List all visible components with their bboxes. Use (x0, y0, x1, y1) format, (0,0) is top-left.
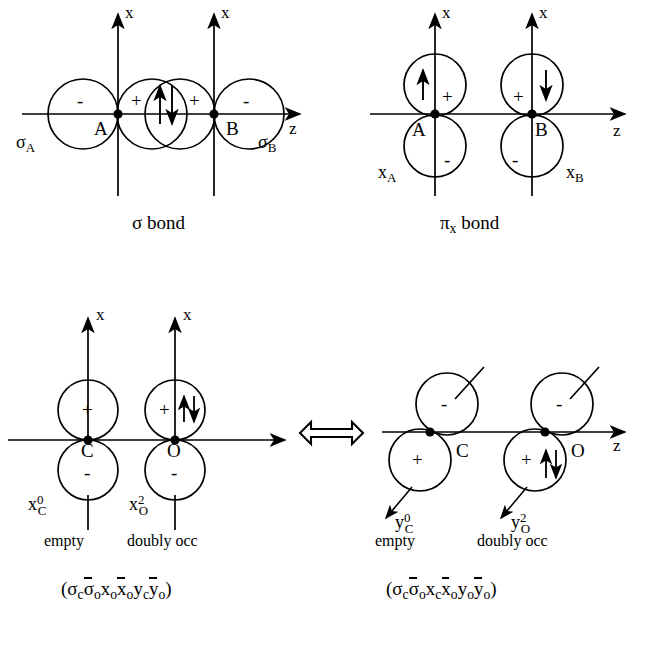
lobe-sign-xc-top: + (82, 400, 93, 419)
lobe-sign-pi-top-b: + (513, 87, 524, 106)
axis-label-x-c: x (96, 306, 105, 323)
atom-label-c-y: C (456, 441, 469, 460)
y-c-base: y (395, 512, 404, 532)
x-b-sub: B (575, 170, 584, 185)
panel-sigma-bond (22, 14, 300, 196)
orbital-label-x-o: x2O (129, 494, 148, 518)
y-o-base: y (511, 512, 520, 532)
occupancy-x-c: empty (44, 533, 84, 549)
config-l-t5: y (149, 579, 159, 598)
config-r-t4: y (458, 578, 468, 599)
x-a-sub: A (387, 170, 396, 185)
axis-label-x-b1: x (221, 4, 230, 21)
config-r-t1: σ (409, 579, 419, 598)
lobe-sign-sigma-2: + (131, 91, 142, 110)
config-r-t3: x (441, 579, 451, 598)
config-r-t5: y (474, 579, 484, 598)
axis-label-z-4: z (613, 437, 621, 454)
lobe-sign-yo-bottom: + (521, 450, 532, 469)
atom-label-o-x: O (167, 441, 181, 460)
config-right-close: ) (490, 578, 496, 599)
lobe-sign-pi-top-a: + (442, 87, 453, 106)
caption-sigma-bond: σ bond (132, 213, 185, 232)
x-o-sub: O (139, 503, 148, 518)
axis-label-x-a1: x (125, 4, 134, 21)
pi-caption-rest: bond (456, 212, 499, 233)
molecular-orbital-figure: x x z - + + - A B σA σB σ bond x x z + +… (0, 0, 649, 649)
x-c-base: x (28, 494, 37, 514)
occupancy-y-c: empty (375, 533, 415, 549)
axis-label-z-1: z (289, 120, 297, 137)
resonance-arrow-shape (300, 422, 363, 444)
config-r-t3-sub: o (451, 587, 458, 602)
lobe-sign-xc-bottom: - (84, 463, 90, 482)
config-l-t4: y (133, 578, 143, 599)
config-l-t3: x (117, 579, 127, 598)
lobe-sign-sigma-4: - (243, 91, 249, 110)
diagram-canvas (0, 0, 649, 649)
config-l-t2: x (101, 578, 111, 599)
caption-pi-bond: πx bond (440, 213, 499, 236)
config-l-t2-sub: o (110, 587, 117, 602)
sigma-b-base: σ (258, 132, 268, 152)
config-l-t1-sub: o (94, 587, 101, 602)
config-r-t0: σ (392, 578, 402, 599)
atom-label-o-y: O (571, 441, 585, 460)
atom-label-b-pi: B (535, 120, 548, 139)
sigma-a-sub: A (26, 140, 35, 155)
orbital-label-x-c: x0C (28, 494, 46, 518)
panel-co-y (382, 367, 625, 518)
lobe-sign-sigma-1: - (77, 91, 83, 110)
axis-label-x-b2: x (539, 4, 548, 21)
axis-label-z-2: z (613, 122, 621, 139)
atom-label-c-x: C (81, 441, 94, 460)
lobe-sign-yc-top: - (441, 394, 447, 413)
config-r-t1-sub: o (419, 587, 426, 602)
pi-caption-base: π (440, 212, 450, 233)
lobe-sign-yo-top: - (556, 394, 562, 413)
lobe-sign-yc-bottom: + (412, 450, 423, 469)
lobe-sign-pi-bot-b: - (512, 150, 518, 169)
x-c-sub: C (38, 503, 47, 518)
orbital-label-sigma-b: σB (258, 133, 276, 155)
occupancy-x-o: doubly occ (127, 533, 198, 549)
axis-label-x-a2: x (442, 4, 451, 21)
atom-label-a-sigma: A (94, 119, 108, 138)
lobe-sign-sigma-3: + (189, 91, 200, 110)
x-o-base: x (129, 494, 138, 514)
atom-label-b-sigma: B (226, 119, 239, 138)
lobe-sign-xo-top: + (159, 400, 170, 419)
panel-pi-bond (370, 14, 625, 196)
lobe-sign-xo-bottom: - (171, 463, 177, 482)
sigma-a-base: σ (16, 132, 26, 152)
config-l-t0: σ (67, 578, 77, 599)
config-r-t4-sub: o (467, 587, 474, 602)
atom-label-a-pi: A (412, 120, 426, 139)
configuration-left: (σcσoxoxoycyo) (61, 579, 172, 602)
sigma-b-sub: B (268, 140, 277, 155)
orbital-label-sigma-a: σA (16, 133, 35, 155)
config-left-close: ) (165, 578, 171, 599)
lobe-sign-pi-bot-a: - (444, 150, 450, 169)
x-b-base: x (566, 162, 575, 182)
configuration-right: (σcσoxcxoyoyo) (386, 579, 497, 602)
config-l-t1: σ (84, 579, 94, 598)
orbital-label-x-b: xB (566, 163, 584, 185)
x-a-base: x (378, 162, 387, 182)
occupancy-y-o: doubly occ (477, 533, 548, 549)
orbital-label-x-a: xA (378, 163, 396, 185)
axis-label-x-o: x (183, 306, 192, 323)
config-r-t2: x (426, 578, 436, 599)
